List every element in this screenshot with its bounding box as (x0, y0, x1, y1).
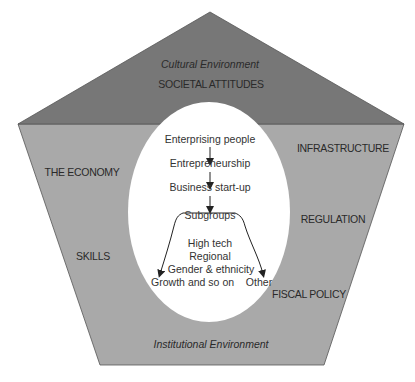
branch-growth-label: Growth (151, 276, 185, 288)
flow-step-subgroups: Subgroups (185, 209, 236, 221)
infrastructure-label: INFRASTRUCTURE (297, 142, 389, 154)
subgroup-regional: Regional (189, 250, 230, 262)
flow-step-entrepreneurship: Entrepreneurship (170, 157, 251, 169)
the-economy-label: THE ECONOMY (45, 166, 120, 178)
skills-label: SKILLS (76, 250, 110, 262)
institutional-environment-label: Institutional Environment (154, 338, 269, 350)
subgroup-and-so-on: and so on (188, 276, 234, 288)
regulation-label: REGULATION (301, 213, 365, 225)
fiscal-policy-label: FISCAL POLICY (272, 288, 346, 300)
branch-other-label: Other (246, 276, 272, 288)
subgroup-high-tech: High tech (188, 237, 232, 249)
flow-step-business-start-up: Business start-up (169, 181, 250, 193)
societal-attitudes-label: SOCIETAL ATTITUDES (158, 78, 263, 90)
flow-step-enterprising-people: Enterprising people (165, 133, 255, 145)
cultural-environment-label: Cultural Environment (161, 58, 259, 70)
subgroup-gender-ethnicity: Gender & ethnicity (168, 263, 254, 275)
